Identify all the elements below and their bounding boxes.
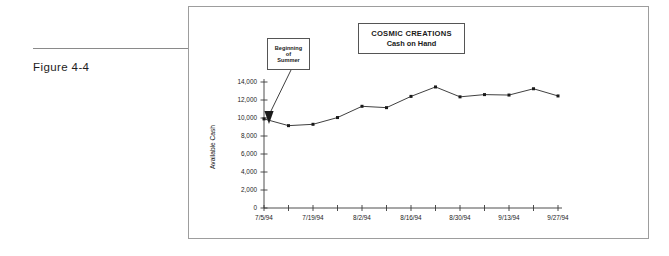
chart-title-box: COSMIC CREATIONS Cash on Hand bbox=[358, 23, 465, 54]
data-point-marker bbox=[385, 106, 388, 109]
y-tick-label: 12,000 bbox=[237, 96, 257, 103]
figure-label: Figure 4-4 bbox=[33, 61, 89, 73]
y-axis-title: Available Cash bbox=[209, 125, 216, 169]
x-tick-label: 9/27/94 bbox=[547, 214, 569, 221]
x-axis: 7/5/947/19/948/2/948/16/948/30/949/13/94… bbox=[255, 205, 569, 221]
chart-frame: 02,0004,0006,0008,00010,00012,00014,000 … bbox=[188, 6, 649, 239]
x-tick-label: 7/19/94 bbox=[302, 214, 324, 221]
data-point-marker bbox=[336, 116, 339, 119]
x-tick-label: 9/13/94 bbox=[498, 214, 520, 221]
chart-title-subtitle: Cash on Hand bbox=[387, 39, 437, 48]
annotation-line-3: Summer bbox=[277, 57, 299, 63]
annotation-callout-box: Beginning of Summer bbox=[267, 38, 310, 70]
data-series-available-cash bbox=[263, 85, 560, 127]
y-tick-label: 4,000 bbox=[241, 168, 257, 175]
data-point-marker bbox=[434, 85, 437, 88]
data-point-marker bbox=[312, 123, 315, 126]
data-point-marker bbox=[410, 95, 413, 98]
x-tick-label: 8/30/94 bbox=[449, 214, 471, 221]
data-point-marker bbox=[483, 93, 486, 96]
data-point-marker bbox=[459, 95, 462, 98]
y-axis: 02,0004,0006,0008,00010,00012,00014,000 bbox=[237, 78, 267, 211]
figure-caption-block: Figure 4-4 bbox=[0, 48, 195, 88]
data-point-marker bbox=[508, 94, 511, 97]
data-point-marker bbox=[361, 105, 364, 108]
y-tick-label: 0 bbox=[253, 204, 257, 211]
y-tick-label: 14,000 bbox=[237, 78, 257, 85]
chart-title-main: COSMIC CREATIONS bbox=[371, 29, 452, 38]
data-point-marker bbox=[287, 124, 290, 127]
y-tick-label: 6,000 bbox=[241, 150, 257, 157]
y-tick-label: 10,000 bbox=[237, 114, 257, 121]
data-point-marker bbox=[532, 87, 535, 90]
x-tick-label: 8/16/94 bbox=[400, 214, 422, 221]
x-tick-label: 8/2/94 bbox=[353, 214, 371, 221]
y-tick-label: 2,000 bbox=[241, 186, 257, 193]
x-tick-label: 7/5/94 bbox=[255, 214, 273, 221]
data-point-marker bbox=[557, 94, 560, 97]
y-tick-label: 8,000 bbox=[241, 132, 257, 139]
data-point-marker bbox=[263, 117, 266, 120]
figure-divider-rule bbox=[33, 48, 195, 49]
